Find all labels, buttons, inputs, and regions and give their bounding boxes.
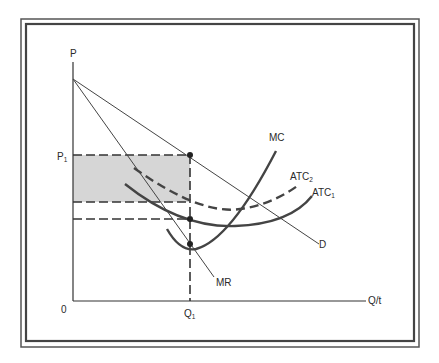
atc2-label: ATC2 xyxy=(290,171,313,183)
mc-label: MC xyxy=(269,132,285,143)
profit-area xyxy=(73,155,190,202)
atc1-label: ATC1 xyxy=(312,187,335,199)
q1-label: Q1 xyxy=(184,308,196,320)
mr-label: MR xyxy=(216,277,232,288)
mc-mr-intersection xyxy=(187,241,193,247)
y-axis-label: P xyxy=(70,48,77,59)
origin-label: 0 xyxy=(61,304,67,315)
x-axis-label: Q/t xyxy=(368,295,382,306)
price-point xyxy=(187,152,193,158)
atc1-point xyxy=(187,216,193,222)
demand-label: D xyxy=(319,239,326,250)
monopoly-diagram: P Q/t 0 P1 Q1 D MR MC ATC2 ATC1 xyxy=(0,0,439,363)
p1-label: P1 xyxy=(57,151,68,163)
